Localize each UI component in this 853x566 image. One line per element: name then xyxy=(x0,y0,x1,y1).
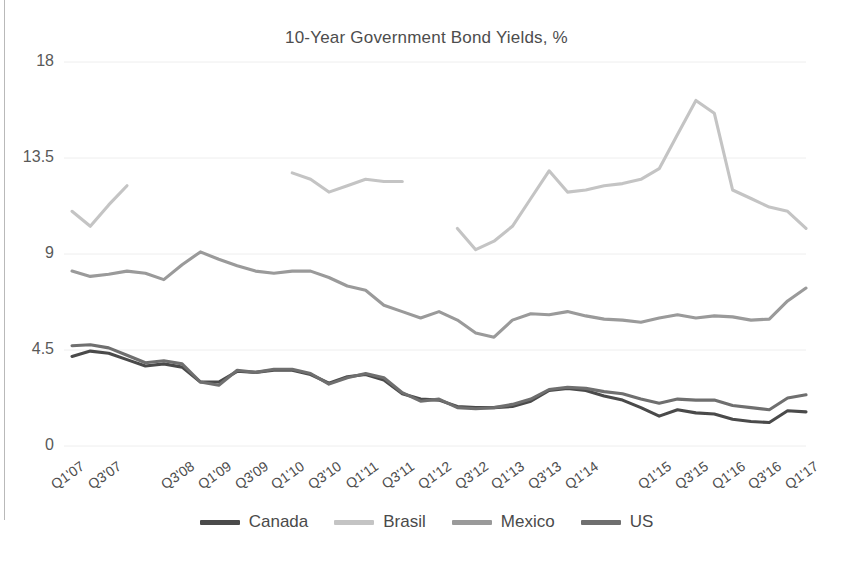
y-tick-label: 9 xyxy=(0,244,54,262)
y-tick-label: 0 xyxy=(0,436,54,454)
series-line-brasil xyxy=(292,173,402,192)
y-tick-label: 13.5 xyxy=(0,148,54,166)
chart-figure: 10-Year Government Bond Yields, % 04.591… xyxy=(0,0,853,566)
legend-swatch-icon xyxy=(334,520,374,525)
series-line-brasil xyxy=(72,186,127,227)
series-line-canada xyxy=(72,351,806,422)
legend-label: Canada xyxy=(249,512,309,532)
legend-label: Mexico xyxy=(501,512,555,532)
gridlines xyxy=(64,62,806,446)
chart-legend: CanadaBrasilMexicoUS xyxy=(0,512,853,532)
y-tick-label: 18 xyxy=(0,52,54,70)
series-line-mexico xyxy=(72,252,806,337)
series-lines xyxy=(72,100,806,422)
legend-item-canada[interactable]: Canada xyxy=(200,512,309,532)
legend-label: Brasil xyxy=(383,512,426,532)
legend-swatch-icon xyxy=(452,520,492,525)
y-tick-label: 4.5 xyxy=(0,340,54,358)
series-line-us xyxy=(72,345,806,410)
legend-swatch-icon xyxy=(581,520,621,525)
legend-label: US xyxy=(630,512,654,532)
legend-item-mexico[interactable]: Mexico xyxy=(452,512,555,532)
series-line-brasil xyxy=(457,100,806,249)
legend-swatch-icon xyxy=(200,520,240,525)
legend-item-brasil[interactable]: Brasil xyxy=(334,512,426,532)
legend-item-us[interactable]: US xyxy=(581,512,654,532)
